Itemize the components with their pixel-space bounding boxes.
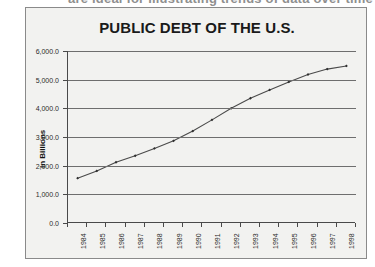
x-tick-mark — [105, 223, 106, 227]
x-tick-mark — [336, 223, 337, 227]
x-tick-mark — [201, 223, 202, 227]
data-point-marker — [307, 73, 310, 76]
x-tick-label: 1984 — [80, 233, 87, 249]
y-tick-mark — [63, 194, 67, 195]
gridline — [68, 108, 356, 109]
y-tick-mark — [63, 166, 67, 167]
x-tick-mark — [317, 223, 318, 227]
y-tick-label: 0.0 — [49, 220, 59, 227]
gridline — [68, 137, 356, 138]
chart-frame: PUBLIC DEBT OF THE U.S. In Billions 0.01… — [25, 7, 367, 259]
x-tick-label: 1991 — [214, 233, 221, 249]
gridline — [68, 166, 356, 167]
data-point-marker — [76, 177, 79, 180]
x-tick-mark — [240, 223, 241, 227]
x-tick-label: 1990 — [195, 233, 202, 249]
y-tick-label: 4,000.0 — [36, 105, 59, 112]
plot-area — [67, 51, 355, 223]
y-tick-label: 3,000.0 — [36, 134, 59, 141]
y-tick-mark — [63, 51, 67, 52]
gridline — [68, 194, 356, 195]
x-tick-label: 1987 — [137, 233, 144, 249]
x-tick-label: 1996 — [310, 233, 317, 249]
data-point-marker — [345, 65, 348, 68]
y-tick-label: 1,000.0 — [36, 191, 59, 198]
y-tick-label: 2,000.0 — [36, 162, 59, 169]
x-tick-mark — [221, 223, 222, 227]
x-tick-label: 1995 — [291, 233, 298, 249]
x-tick-mark — [278, 223, 279, 227]
x-tick-label: 1985 — [99, 233, 106, 249]
x-tick-mark — [86, 223, 87, 227]
y-tick-mark — [63, 80, 67, 81]
x-tick-label: 1986 — [118, 233, 125, 249]
gridline — [68, 51, 356, 52]
x-tick-label: 1993 — [252, 233, 259, 249]
y-tick-mark — [63, 137, 67, 138]
x-tick-mark — [182, 223, 183, 227]
data-point-marker — [326, 68, 329, 71]
x-tick-label: 1988 — [156, 233, 163, 249]
chart-title: PUBLIC DEBT OF THE U.S. — [26, 19, 368, 36]
x-tick-mark — [297, 223, 298, 227]
x-tick-mark — [163, 223, 164, 227]
x-tick-mark — [355, 223, 356, 227]
y-tick-mark — [63, 108, 67, 109]
page-caption-strip: are ideal for illustrating trends of dat… — [0, 0, 375, 7]
gridline — [68, 80, 356, 81]
y-tick-label: 6,000.0 — [36, 48, 59, 55]
x-tick-label: 1997 — [329, 233, 336, 249]
x-tick-label: 1998 — [348, 233, 355, 249]
x-tick-label: 1992 — [233, 233, 240, 249]
x-tick-mark — [259, 223, 260, 227]
x-tick-mark — [67, 223, 68, 227]
caption-text: are ideal for illustrating trends of dat… — [68, 0, 373, 6]
x-tick-mark — [125, 223, 126, 227]
x-tick-label: 1989 — [176, 233, 183, 249]
x-tick-mark — [144, 223, 145, 227]
data-point-marker — [134, 154, 137, 157]
x-tick-label: 1994 — [272, 233, 279, 249]
y-tick-label: 5,000.0 — [36, 76, 59, 83]
